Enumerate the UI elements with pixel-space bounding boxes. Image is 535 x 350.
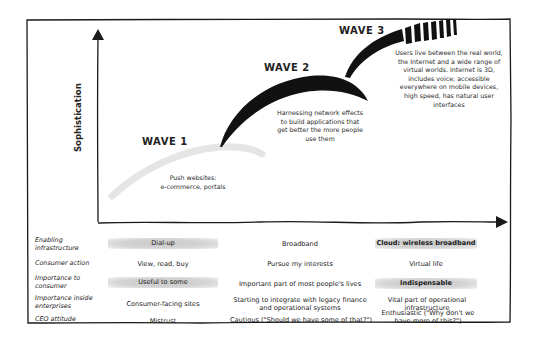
cell-wave3-importance-consumer: Indispensable — [375, 278, 477, 289]
wave-3-dashes — [405, 19, 457, 44]
cell-wave2-consumer-action: Pursue my interests — [240, 260, 360, 268]
cell-wave2-ceo-attitude: Cautious ("Should we have some of that?"… — [228, 316, 374, 324]
row-label-enabling-infrastructure: Enabling infrastructure — [35, 237, 79, 252]
row-label-ceo-attitude: CEO attitude — [35, 316, 76, 324]
cell-wave3-ceo-attitude: Enthusiastic ("Why don't we have more of… — [380, 309, 476, 325]
y-axis-label: Sophistication — [73, 83, 83, 152]
wave-3-description: Users live between the real world, the I… — [393, 49, 505, 109]
cell-wave2-importance-consumer: Important part of most people's lives — [228, 280, 372, 288]
cell-wave2-infrastructure: Broadband — [240, 240, 360, 248]
cell-wave2-importance-enterprise: Starting to integrate with legacy financ… — [232, 296, 368, 312]
cell-wave1-importance-consumer: Useful to some — [108, 277, 218, 288]
wave-1-description: Push websites: e-commerce, portals — [148, 174, 238, 191]
x-axis-arrow-icon — [496, 216, 508, 228]
cell-wave3-infrastructure: Cloud: wireless broadband — [375, 238, 477, 249]
cell-wave1-ceo-attitude: Mistrust — [108, 317, 218, 325]
cell-wave3-consumer-action: Virtual life — [375, 260, 477, 268]
cell-wave1-consumer-action: View, read, buy — [108, 260, 218, 268]
wave-2-label: WAVE 2 — [264, 62, 310, 73]
wave-3-label: WAVE 3 — [339, 25, 385, 36]
row-label-importance-inside-enterprises: Importance inside enterprises — [35, 295, 93, 310]
row-label-importance-to-consumer: Importance to consumer — [35, 275, 80, 290]
y-axis-arrow-icon — [92, 29, 104, 40]
wave-1-label: WAVE 1 — [142, 136, 188, 147]
wave-2-description: Harnessing network effects to build appl… — [270, 109, 370, 143]
row-label-consumer-action: Consumer action — [35, 260, 89, 268]
diagram-frame: Sophistication WAVE 1 WAVE 2 WAVE 3 Push… — [0, 0, 535, 350]
cell-wave1-infrastructure: Dial-up — [108, 238, 218, 249]
cell-wave1-importance-enterprise: Consumer-facing sites — [108, 300, 218, 308]
x-axis-line — [98, 222, 498, 223]
